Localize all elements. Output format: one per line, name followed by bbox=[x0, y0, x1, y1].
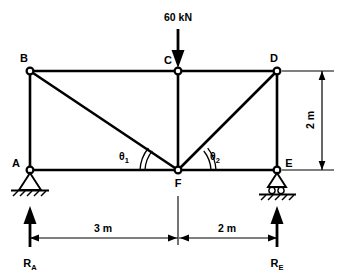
joint-b bbox=[27, 68, 34, 75]
applied-load-arrowhead bbox=[172, 50, 185, 68]
dim-2m-vertical-arrowhead-top bbox=[319, 71, 326, 80]
roller-support-hatching bbox=[261, 195, 294, 200]
joint-label-a: A bbox=[12, 157, 20, 169]
joint-label-f: F bbox=[175, 177, 182, 189]
reaction-forces: RA RE bbox=[23, 206, 283, 272]
truss-diagram-canvas: B C D A F E 60 kN θ1 θ2 bbox=[0, 0, 341, 272]
joint-label-e: E bbox=[285, 157, 292, 169]
support-pin-a bbox=[11, 173, 49, 196]
joint-d bbox=[274, 68, 281, 75]
roller-support-triangle bbox=[268, 173, 286, 187]
joint-label-c: C bbox=[164, 54, 172, 66]
horizontal-dimensions: 3 m 2 m bbox=[30, 196, 277, 245]
truss-joints bbox=[27, 68, 281, 174]
reaction-a-symbol: R bbox=[23, 257, 31, 269]
joint-label-d: D bbox=[270, 52, 278, 64]
joint-labels: B C D A F E bbox=[12, 52, 293, 189]
theta1-arc-inner bbox=[145, 151, 152, 170]
reaction-e-symbol: R bbox=[271, 257, 279, 269]
theta1-label: θ1 bbox=[119, 150, 129, 165]
dim-3m-label: 3 m bbox=[94, 222, 112, 234]
dim-2m-horizontal-label: 2 m bbox=[218, 222, 236, 234]
theta2-subscript: 2 bbox=[216, 156, 220, 165]
truss-members bbox=[30, 71, 277, 170]
roller-wheel-left bbox=[269, 187, 275, 193]
joint-c bbox=[175, 68, 182, 75]
reaction-e-subscript: E bbox=[278, 263, 283, 272]
reaction-e-arrowhead bbox=[271, 206, 284, 224]
dim-2m-vertical-label: 2 m bbox=[304, 111, 316, 129]
dim-3m-arrowhead-right bbox=[168, 235, 177, 242]
truss-diagram-root: B C D A F E 60 kN θ1 θ2 bbox=[0, 0, 341, 272]
theta2-label: θ2 bbox=[210, 150, 220, 165]
reaction-a-arrowhead bbox=[24, 206, 37, 224]
theta1-subscript: 1 bbox=[125, 156, 129, 165]
pin-support-triangle bbox=[19, 173, 41, 190]
reaction-e-label: RE bbox=[271, 257, 284, 272]
roller-wheel-right bbox=[278, 187, 284, 193]
vertical-dimension: 2 m bbox=[282, 71, 334, 170]
dim-2m-arrowhead-left bbox=[180, 235, 189, 242]
joint-label-b: B bbox=[20, 52, 28, 64]
applied-load-label: 60 kN bbox=[164, 11, 192, 23]
reaction-a-subscript: A bbox=[31, 263, 37, 272]
member-diagonal-bf bbox=[30, 71, 178, 170]
reaction-a-label: RA bbox=[23, 257, 37, 272]
joint-f bbox=[175, 167, 182, 174]
member-diagonal-df bbox=[178, 71, 277, 170]
pin-support-hatching bbox=[13, 191, 46, 196]
dim-2m-vertical-arrowhead-bottom bbox=[319, 161, 326, 170]
support-roller-e bbox=[259, 173, 296, 200]
